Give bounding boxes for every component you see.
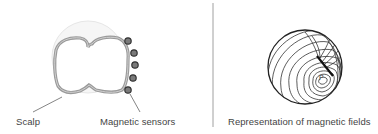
scalp-label: Scalp [16, 116, 40, 127]
sensor-1 [125, 38, 131, 44]
peak-marker: P [319, 74, 324, 81]
magnetic-fields-caption: Representation of magnetic fields [228, 116, 371, 127]
sensor-5 [125, 87, 131, 93]
sensor-2 [131, 50, 137, 56]
sensor-4 [130, 75, 136, 81]
sensors-label: Magnetic sensors [100, 116, 175, 127]
scalp-leader-line [33, 97, 62, 112]
magnetic-field-map [268, 30, 343, 114]
head-outline [268, 30, 342, 104]
sensor-3 [132, 62, 138, 68]
diagram-canvas [0, 0, 378, 134]
head-cross-section [52, 21, 128, 93]
brain-outline [55, 37, 128, 92]
sensor-leader-line [130, 94, 140, 112]
